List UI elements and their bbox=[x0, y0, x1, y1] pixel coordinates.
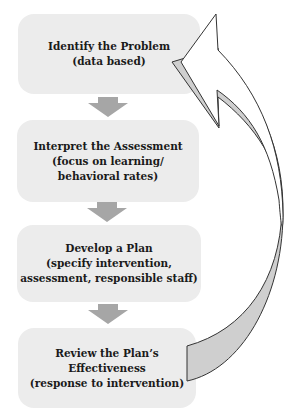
step-subtitle: (data based) bbox=[72, 54, 145, 69]
down-arrow-icon bbox=[88, 97, 128, 117]
step-subtitle: (specify intervention, bbox=[46, 256, 172, 271]
step-subtitle: assessment, responsible staff) bbox=[20, 271, 198, 286]
step-title: Review the Plan’s bbox=[55, 346, 159, 361]
step-title: Develop a Plan bbox=[65, 241, 152, 256]
step-review-effectiveness: Review the Plan’s Effectiveness (respons… bbox=[18, 328, 196, 408]
step-subtitle: (focus on learning/ bbox=[52, 154, 164, 169]
step-develop-plan: Develop a Plan (specify intervention, as… bbox=[17, 225, 201, 302]
rti-process-diagram: Identify the Problem (data based) Interp… bbox=[0, 0, 293, 416]
step-subtitle: (response to intervention) bbox=[30, 376, 184, 391]
step-subtitle: behavioral rates) bbox=[58, 169, 158, 184]
down-arrow-icon bbox=[88, 304, 128, 324]
step-title: Interpret the Assessment bbox=[33, 139, 182, 154]
step-identify-problem: Identify the Problem (data based) bbox=[18, 14, 200, 94]
down-arrow-icon bbox=[87, 202, 127, 222]
step-title: Effectiveness bbox=[68, 361, 145, 376]
step-interpret-assessment: Interpret the Assessment (focus on learn… bbox=[17, 120, 199, 202]
step-title: Identify the Problem bbox=[48, 39, 170, 54]
